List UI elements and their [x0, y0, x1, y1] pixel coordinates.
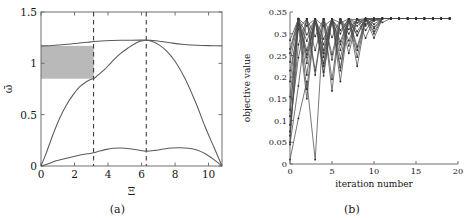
data-point-marker: [314, 18, 316, 20]
data-point-marker: [356, 31, 358, 33]
x-tick-label: 20: [453, 166, 463, 176]
panel-a-axes-box: [41, 12, 222, 166]
x-axis-label: Ξ: [128, 185, 135, 197]
data-point-marker: [331, 36, 333, 38]
data-point-marker: [297, 18, 299, 20]
y-tick-label: 0.25: [269, 51, 287, 61]
data-point-marker: [306, 25, 308, 27]
y-axis-label: ω̄: [2, 84, 14, 93]
data-point-marker: [339, 18, 341, 20]
convergence-run-line: [290, 19, 450, 136]
data-point-marker: [331, 90, 333, 92]
data-point-marker: [323, 44, 325, 46]
data-point-marker: [289, 159, 291, 161]
data-point-marker: [390, 18, 392, 20]
data-point-marker: [339, 49, 341, 51]
data-point-marker: [365, 25, 367, 27]
data-point-marker: [323, 71, 325, 73]
data-point-marker: [356, 19, 358, 21]
data-point-marker: [398, 18, 400, 20]
data-point-marker: [297, 44, 299, 46]
panel-b-convergence-plot: 0510152000.050.10.150.20.250.30.35iterat…: [235, 0, 469, 218]
data-point-marker: [331, 18, 333, 20]
y-tick-label: 1.5: [20, 6, 37, 18]
data-point-marker: [423, 18, 425, 20]
x-tick-label: 0: [38, 168, 45, 180]
data-point-marker: [323, 75, 325, 77]
data-point-marker: [306, 74, 308, 76]
x-tick-label: 5: [329, 166, 334, 176]
data-point-marker: [356, 35, 358, 37]
data-point-marker: [323, 38, 325, 40]
x-tick-label: 10: [369, 166, 379, 176]
data-point-marker: [373, 33, 375, 35]
panel-b-caption: (b): [235, 203, 469, 216]
convergence-run-line: [290, 19, 450, 125]
dispersion-curve: [41, 40, 222, 46]
data-point-marker: [331, 59, 333, 61]
data-point-marker: [339, 70, 341, 72]
data-point-marker: [323, 62, 325, 64]
data-point-marker: [373, 28, 375, 30]
convergence-run-line: [290, 19, 450, 145]
data-point-marker: [440, 18, 442, 20]
data-point-marker: [356, 65, 358, 67]
dispersion-curve: [41, 148, 222, 166]
data-point-marker: [432, 18, 434, 20]
x-tick-label: 15: [411, 166, 421, 176]
data-point-marker: [339, 81, 341, 83]
data-point-marker: [381, 21, 383, 23]
data-point-marker: [289, 39, 291, 41]
band-gap-shaded-region: [41, 46, 94, 79]
x-tick-label: 8: [172, 168, 179, 180]
x-tick-label: 10: [202, 168, 215, 180]
data-point-marker: [289, 70, 291, 72]
data-point-marker: [306, 34, 308, 36]
data-point-marker: [356, 49, 358, 51]
data-point-marker: [297, 57, 299, 59]
convergence-series-group: [289, 18, 451, 161]
data-point-marker: [289, 96, 291, 98]
convergence-run-line: [290, 19, 450, 143]
data-point-marker: [348, 45, 350, 47]
data-point-marker: [314, 35, 316, 37]
data-point-marker: [306, 54, 308, 56]
data-point-marker: [289, 61, 291, 63]
data-point-marker: [306, 18, 308, 20]
data-point-marker: [407, 18, 409, 20]
x-tick-label: 6: [138, 168, 145, 180]
data-point-marker: [306, 62, 308, 64]
data-point-marker: [339, 58, 341, 60]
y-tick-label: 0: [282, 159, 287, 169]
data-point-marker: [323, 18, 325, 20]
data-point-marker: [365, 37, 367, 39]
data-point-marker: [373, 26, 375, 28]
data-point-marker: [314, 74, 316, 76]
data-point-marker: [373, 37, 375, 39]
data-point-marker: [314, 49, 316, 51]
data-point-marker: [289, 48, 291, 50]
data-point-marker: [289, 115, 291, 117]
y-tick-label: 1: [30, 57, 37, 69]
data-point-marker: [356, 25, 358, 27]
x-tick-label: 4: [105, 168, 112, 180]
data-point-marker: [289, 52, 291, 54]
data-point-marker: [348, 40, 350, 42]
data-point-marker: [306, 98, 308, 100]
data-point-marker: [339, 22, 341, 24]
y-tick-label: 0: [30, 160, 37, 172]
data-point-marker: [339, 33, 341, 35]
panel-a-caption: (a): [0, 203, 235, 216]
data-point-marker: [289, 124, 291, 126]
panel-b-svg: 0510152000.050.10.150.20.250.30.35iterat…: [235, 0, 469, 218]
data-point-marker: [297, 85, 299, 87]
data-point-marker: [289, 144, 291, 146]
y-tick-label: 0.15: [269, 94, 287, 104]
figure-container: 024681000.511.5Ξω̄ (a) 0510152000.050.10…: [0, 0, 469, 218]
panel-a-svg: 024681000.511.5Ξω̄: [0, 0, 235, 218]
data-point-marker: [348, 18, 350, 20]
panel-a-dispersion-plot: 024681000.511.5Ξω̄ (a): [0, 0, 235, 218]
data-point-marker: [348, 28, 350, 30]
data-point-marker: [289, 130, 291, 132]
data-point-marker: [289, 81, 291, 83]
